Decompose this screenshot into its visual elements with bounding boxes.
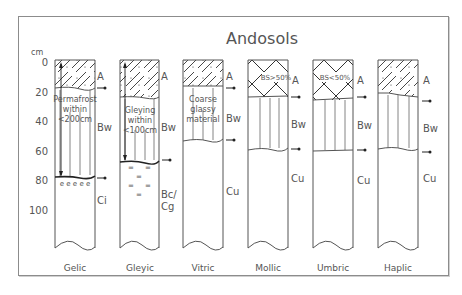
svg-text:Cu: Cu — [357, 175, 370, 186]
svg-text:Cg: Cg — [161, 201, 174, 212]
svg-text:=: = — [128, 164, 134, 172]
profile-label-gleyic: Gleyic — [126, 263, 154, 273]
svg-text:Cu: Cu — [291, 173, 304, 184]
svg-text:A: A — [357, 75, 364, 86]
andosols-diagram: Andosols cm 0 20 40 60 80 100 Permafrost… — [0, 0, 462, 295]
svg-text:Bw: Bw — [97, 122, 112, 133]
svg-text:e e e e e: e e e e e — [60, 180, 90, 188]
svg-text:A: A — [161, 71, 168, 82]
svg-text:0: 0 — [42, 57, 48, 68]
svg-text:Bw: Bw — [423, 123, 438, 134]
svg-text:40: 40 — [35, 116, 48, 127]
svg-text:=: = — [136, 173, 142, 181]
svg-text:A: A — [97, 71, 104, 82]
profile-mollic: BS>50% A Bw Cu Mollic — [248, 60, 306, 273]
svg-text:Coarse: Coarse — [189, 95, 217, 104]
svg-text:Cu: Cu — [423, 173, 436, 184]
svg-text:material: material — [186, 115, 219, 124]
svg-text:glassy: glassy — [190, 105, 216, 114]
profile-label-haplic: Haplic — [384, 263, 412, 273]
svg-text:20: 20 — [35, 87, 48, 98]
profile-label-gelic: Gelic — [64, 263, 87, 273]
svg-text:60: 60 — [35, 146, 48, 157]
svg-text:Bc/: Bc/ — [161, 189, 177, 200]
svg-text:=: = — [145, 164, 151, 172]
profile-label-umbric: Umbric — [317, 263, 349, 273]
svg-text:<200cm: <200cm — [58, 115, 92, 124]
svg-text:=: = — [136, 191, 142, 199]
svg-text:=: = — [128, 182, 134, 190]
svg-text:<100cm: <100cm — [123, 126, 157, 135]
svg-text:=: = — [145, 182, 151, 190]
y-axis-ticks: 0 20 40 60 80 100 — [29, 57, 48, 216]
profile-vitric: Coarse glassy material A Bw Cu Vitric — [183, 60, 241, 273]
diagram-title: Andosols — [226, 29, 298, 48]
svg-text:Bw: Bw — [291, 119, 306, 130]
profile-umbric: BS<50% A Bw Cu Umbric — [313, 60, 372, 273]
svg-text:within: within — [63, 105, 87, 114]
profile-gleyic: Gleying within <100cm = = = = = = A Bw B… — [120, 60, 177, 273]
profile-label-mollic: Mollic — [255, 263, 281, 273]
svg-text:BS>50%: BS>50% — [261, 74, 292, 82]
svg-text:Gleying: Gleying — [125, 106, 155, 115]
svg-text:BS<50%: BS<50% — [320, 74, 351, 82]
svg-text:A: A — [423, 75, 430, 86]
profile-haplic: A Bw Cu Haplic — [378, 60, 438, 273]
svg-text:80: 80 — [35, 175, 48, 186]
svg-text:Permafrost: Permafrost — [53, 95, 96, 104]
svg-text:Bw: Bw — [161, 122, 176, 133]
svg-text:Bw: Bw — [357, 120, 372, 131]
svg-text:Bw: Bw — [226, 113, 241, 124]
svg-text:within: within — [128, 116, 152, 125]
svg-text:A: A — [226, 71, 233, 82]
svg-text:Ci: Ci — [97, 195, 107, 206]
axis-unit: cm — [31, 48, 43, 57]
profile-label-vitric: Vitric — [191, 263, 214, 273]
svg-text:100: 100 — [29, 205, 48, 216]
svg-text:A: A — [292, 75, 299, 86]
profile-gelic: Permafrost within <200cm e e e e e A Bw … — [53, 60, 112, 273]
svg-text:Cu: Cu — [226, 186, 239, 197]
